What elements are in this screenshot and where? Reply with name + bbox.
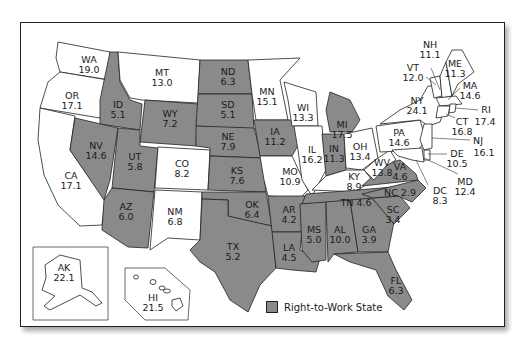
label-de: DE10.5: [446, 149, 467, 169]
legend-swatch: [266, 301, 278, 313]
label-ri-abbr: RI: [481, 105, 490, 115]
state-ma: [436, 96, 462, 106]
label-ma: MA14.6: [459, 81, 480, 101]
label-mt: MT13.0: [151, 68, 172, 88]
label-nh: NH11.1: [419, 40, 440, 60]
label-wi: WI13.3: [292, 103, 313, 123]
label-wy: WY7.2: [162, 109, 177, 129]
label-dc: DC8.3: [432, 186, 447, 206]
label-vt: VT12.0: [402, 63, 423, 83]
label-md: MD12.4: [454, 177, 475, 197]
label-ak: AK22.1: [53, 263, 74, 283]
label-nd: ND6.3: [220, 67, 235, 87]
label-fl: FL6.3: [388, 276, 403, 296]
label-nm: NM6.8: [167, 207, 182, 227]
label-ri-value: 17.4: [474, 117, 495, 127]
label-la: LA4.5: [281, 243, 296, 263]
label-ms: MS5.0: [306, 225, 321, 245]
label-ut: UT5.8: [127, 152, 142, 172]
label-wv: WV13.8: [371, 158, 392, 178]
label-ok: OK6.4: [244, 200, 259, 220]
label-ks: KS7.6: [229, 166, 244, 186]
legend-label: Right-to-Work State: [284, 302, 382, 313]
label-ne: NE7.9: [220, 132, 235, 152]
label-ia: IA11.2: [264, 127, 285, 147]
label-ky: KY8.9: [346, 172, 361, 192]
label-nj-value: 16.1: [473, 148, 494, 158]
state-md: [392, 148, 424, 162]
label-nj-abbr: NJ: [473, 136, 483, 146]
state-ri: [449, 104, 456, 113]
label-mo: MO10.9: [279, 167, 300, 187]
label-or: OR17.1: [61, 91, 82, 111]
label-ca: CA17.1: [60, 171, 81, 191]
label-sd: SD5.1: [220, 100, 235, 120]
label-tx: TX5.2: [225, 242, 240, 262]
label-al: AL10.0: [329, 225, 350, 245]
map-legend: Right-to-Work State: [266, 301, 382, 313]
label-ar: AR4.2: [281, 205, 296, 225]
label-mi: MI17.5: [331, 120, 352, 140]
label-tn: TN 4.6: [340, 198, 371, 208]
label-pa: PA14.6: [388, 128, 409, 148]
label-ga: GA3.9: [361, 225, 376, 245]
label-ny: NY24.1: [406, 96, 427, 116]
label-nc: NC 2.9: [384, 188, 416, 198]
label-mn: MN15.1: [256, 87, 277, 107]
label-wa: WA19.0: [78, 55, 99, 75]
label-ct: CT16.8: [451, 117, 472, 137]
label-co: CO8.2: [174, 159, 189, 179]
label-va: VA4.6: [392, 162, 407, 182]
label-nv: NV14.6: [85, 141, 106, 161]
label-me: ME11.3: [444, 59, 465, 79]
label-oh: OH13.4: [349, 142, 370, 162]
label-in: IN11.3: [323, 144, 344, 164]
label-az: AZ6.0: [118, 202, 133, 222]
label-id: ID5.1: [110, 100, 125, 120]
label-sc: SC3.4: [385, 205, 400, 225]
label-il: IL16.2: [301, 145, 322, 165]
state-ct: [436, 106, 450, 118]
label-hi: HI21.5: [142, 293, 163, 313]
